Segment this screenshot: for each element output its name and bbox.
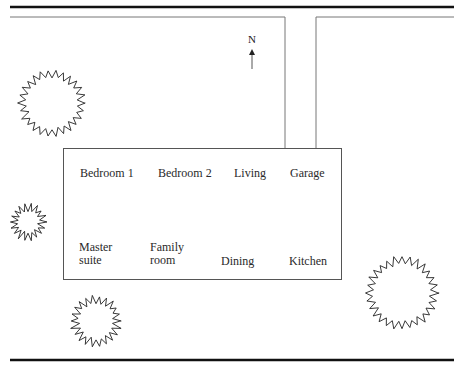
tree-southeast-icon	[366, 257, 440, 329]
room-label-dining: Dining	[221, 255, 254, 268]
tree-west-icon	[10, 203, 47, 240]
street-edge-left	[10, 17, 285, 148]
room-label-garage: Garage	[290, 167, 325, 180]
room-label-master-suite: Master suite	[79, 241, 112, 267]
site-plan-drawing	[0, 0, 463, 371]
street-edge-right	[316, 17, 454, 148]
tree-northwest-icon	[18, 70, 86, 136]
room-label-bedroom-2: Bedroom 2	[158, 167, 212, 180]
room-label-bedroom-1: Bedroom 1	[80, 167, 134, 180]
north-label: N	[248, 33, 256, 45]
room-label-kitchen: Kitchen	[289, 255, 327, 268]
north-arrow-icon	[249, 49, 255, 69]
room-label-living: Living	[234, 167, 266, 180]
tree-southwest-icon	[71, 295, 122, 346]
room-label-family-room: Family room	[150, 241, 184, 267]
